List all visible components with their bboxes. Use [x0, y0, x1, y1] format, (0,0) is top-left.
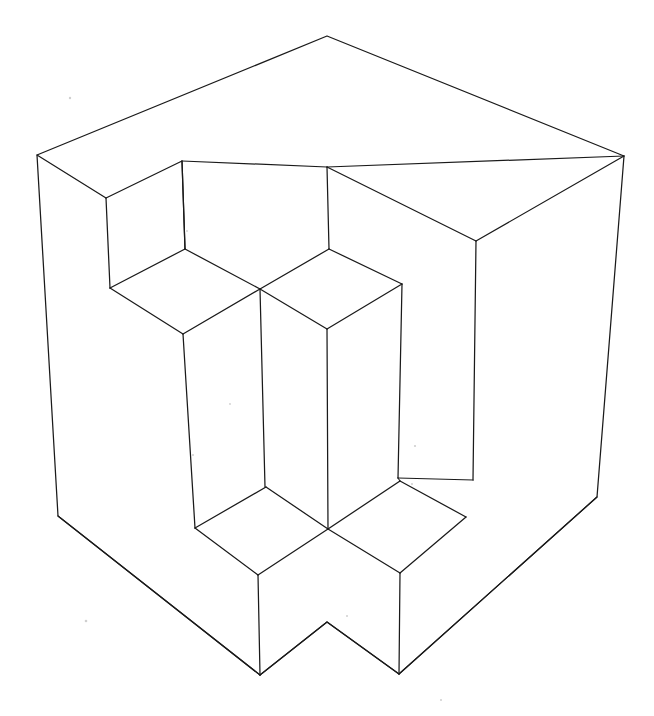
paper-speck	[85, 620, 88, 623]
figure-body-fill	[37, 36, 624, 675]
paper-speck	[440, 699, 442, 701]
isometric-cube-figure	[0, 0, 654, 716]
paper-speck	[229, 403, 231, 405]
paper-speck	[69, 97, 71, 99]
paper-speck	[411, 483, 413, 485]
paper-speck	[192, 454, 194, 456]
paper-speck	[346, 615, 348, 617]
paper-speck	[414, 445, 416, 447]
paper-speck	[186, 230, 188, 232]
drawing-canvas	[0, 0, 654, 716]
